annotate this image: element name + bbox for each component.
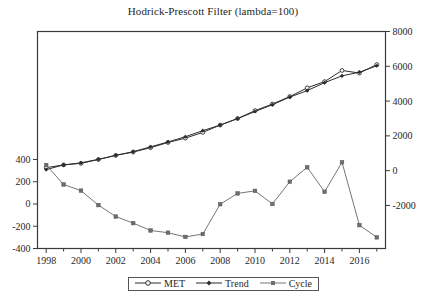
svg-text:8000: 8000 — [393, 26, 413, 37]
svg-text:-400: -400 — [12, 243, 30, 254]
svg-text:6000: 6000 — [393, 61, 413, 72]
svg-text:-200: -200 — [12, 221, 30, 232]
plot-area: 1998200020022004200620082010201220142016… — [0, 0, 426, 302]
legend-item-cycle[interactable]: Cycle — [260, 278, 312, 290]
svg-text:1998: 1998 — [36, 255, 56, 266]
legend-label-cycle: Cycle — [289, 279, 312, 289]
legend-label-met: MET — [164, 279, 185, 289]
legend-item-trend[interactable]: Trend — [196, 278, 249, 290]
svg-text:200: 200 — [16, 176, 31, 187]
chart-legend: MET Trend Cycle — [128, 277, 319, 291]
svg-text:2002: 2002 — [106, 255, 126, 266]
legend-marker-trend-icon — [196, 278, 222, 290]
legend-marker-met-icon — [135, 278, 161, 290]
svg-text:2008: 2008 — [210, 255, 230, 266]
svg-text:2006: 2006 — [175, 255, 195, 266]
svg-text:0: 0 — [393, 165, 398, 176]
legend-label-trend: Trend — [225, 279, 249, 289]
legend-marker-cycle-icon — [260, 278, 286, 290]
legend-item-met[interactable]: MET — [135, 278, 185, 290]
svg-text:2004: 2004 — [141, 255, 161, 266]
hodrick-prescott-chart: Hodrick-Prescott Filter (lambda=100) 199… — [0, 0, 426, 302]
svg-text:2016: 2016 — [349, 255, 369, 266]
svg-text:2000: 2000 — [71, 255, 91, 266]
svg-text:2014: 2014 — [315, 255, 335, 266]
svg-text:2010: 2010 — [245, 255, 265, 266]
svg-text:0: 0 — [26, 198, 31, 209]
svg-text:4000: 4000 — [393, 96, 413, 107]
svg-text:400: 400 — [16, 154, 31, 165]
svg-text:-2000: -2000 — [393, 200, 416, 211]
svg-text:2012: 2012 — [280, 255, 300, 266]
svg-text:2000: 2000 — [393, 130, 413, 141]
